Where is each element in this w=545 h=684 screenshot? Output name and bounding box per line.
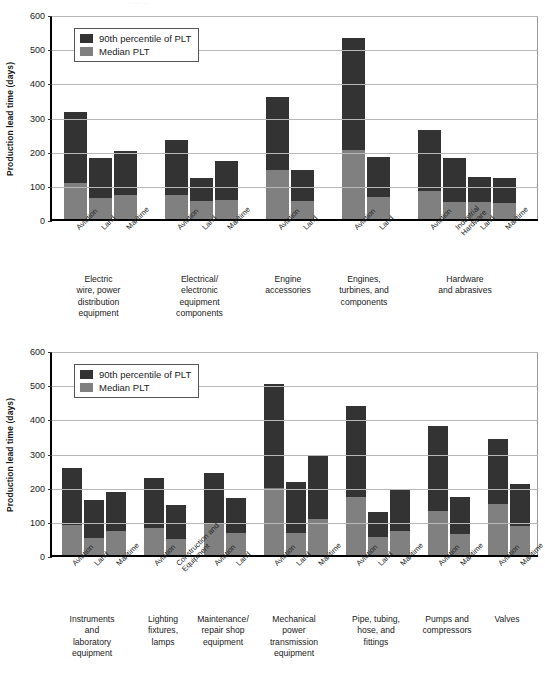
y-tick-mark [48,455,52,456]
y-tick-mark [48,153,52,154]
y-tick-mark [48,187,52,188]
chart-top-legend: 90th percentile of PLT Median PLT [74,28,199,62]
y-tick-label: 100 [30,518,45,528]
legend-item-median: Median PLT [80,382,191,393]
group-label: Hardware and abrasives [422,274,508,297]
y-tick-label: 200 [30,148,45,158]
gridline [52,489,538,490]
y-tick-label: 600 [30,347,45,357]
y-tick-label: 200 [30,484,45,494]
group-label: Electric wire, power distribution equipm… [56,274,142,319]
chart-top-plot-area: 90th percentile of PLT Median PLT [50,16,538,221]
legend-label-median: Median PLT [99,382,150,393]
bar-maritime [114,151,137,219]
legend-label-p90: 90th percentile of PLT [99,369,191,380]
bar-aviation [428,426,448,555]
y-tick-mark [48,16,52,17]
chart-top-y-axis-label: Production lead time (days) [2,16,18,221]
bar-segment-median [308,519,328,555]
faint-top-artifact-text: · ···· ·· [128,0,148,7]
y-tick-label: 600 [30,11,45,21]
legend-label-p90: 90th percentile of PLT [99,33,191,44]
bar-aviation [62,468,82,555]
bar-maritime [493,178,516,219]
y-tick-mark [48,489,52,490]
bar-segment-median [266,170,289,219]
chart-top-y-tick-labels: 0100200300400500600 [18,16,48,221]
chart-bottom-category-labels: AviationLandMaritimeAviationConstruction… [50,560,538,608]
y-tick-label: 400 [30,415,45,425]
y-tick-mark [48,50,52,51]
y-tick-mark [48,386,52,387]
chart-bottom-plot-area: 90th percentile of PLT Median PLT [50,352,538,557]
y-tick-label: 500 [30,381,45,391]
bar-maritime [215,161,238,219]
chart-bottom-y-axis-label: Production lead time (days) [2,352,18,557]
gridline [52,420,538,421]
bar-aviation [144,478,164,555]
y-tick-mark [48,221,52,222]
y-tick-label: 0 [40,552,45,562]
legend-swatch-median-icon [80,47,93,56]
chart-top-figure: Production lead time (days) 010020030040… [0,16,545,346]
gridline [52,84,538,85]
bar-segment-median [428,511,448,555]
legend-swatch-p90-icon [80,370,93,379]
y-tick-label: 300 [30,114,45,124]
gridline [52,352,538,353]
gridline [52,187,538,188]
group-label: Valves [469,614,545,625]
bar-aviation [64,112,87,219]
legend-swatch-p90-icon [80,34,93,43]
legend-swatch-median-icon [80,383,93,392]
y-tick-mark [48,119,52,120]
chart-bottom-figure: Production lead time (days) 010020030040… [0,352,545,684]
bar-maritime [308,456,328,555]
legend-item-median: Median PLT [80,46,191,57]
bar-aviation [266,97,289,219]
bar-segment-median [342,150,365,219]
group-label: Maintenance/ repair shop equipment [185,614,261,648]
y-tick-mark [48,84,52,85]
chart-top-category-labels: AviationLandMaritimeAviationLandMaritime… [50,224,538,272]
group-label: Electrical/ electronic equipment compone… [157,274,243,319]
y-tick-label: 0 [40,216,45,226]
y-tick-mark [48,523,52,524]
y-tick-mark [48,420,52,421]
legend-item-p90: 90th percentile of PLT [80,33,191,44]
bar-aviation [342,38,365,219]
y-tick-label: 300 [30,450,45,460]
y-tick-label: 500 [30,45,45,55]
chart-bottom-y-axis-label-text: Production lead time (days) [5,397,15,511]
bar-segment-median [62,525,82,555]
gridline [52,16,538,17]
gridline [52,119,538,120]
group-label: Pipe, tubing, hose, and fittings [338,614,414,648]
bar-segment-median [64,183,87,219]
chart-top-y-axis-label-text: Production lead time (days) [5,61,15,175]
gridline [52,153,538,154]
y-tick-mark [48,557,52,558]
gridline [52,523,538,524]
group-label: Mechanical power transmission equipment [256,614,332,659]
y-tick-label: 100 [30,182,45,192]
chart-bottom-y-tick-labels: 0100200300400500600 [18,352,48,557]
group-label: Engines, turbines, and components [321,274,407,308]
y-tick-mark [48,352,52,353]
group-label: Engine accessories [245,274,331,297]
bar-aviation [346,406,366,555]
bar-segment-median [346,497,366,555]
bar-aviation [488,439,508,555]
bar-aviation [264,384,284,555]
group-label: Instruments and laboratory equipment [54,614,130,659]
y-tick-label: 400 [30,79,45,89]
legend-item-p90: 90th percentile of PLT [80,369,191,380]
bar-aviation [418,130,441,219]
bar-segment-median [488,504,508,555]
gridline [52,455,538,456]
bar-segment-median [264,488,284,555]
legend-label-median: Median PLT [99,46,150,57]
chart-bottom-legend: 90th percentile of PLT Median PLT [74,364,199,398]
